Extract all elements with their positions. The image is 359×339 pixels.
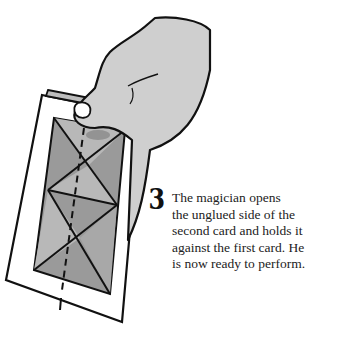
caption-line: against the first card. He [172,240,359,257]
step-caption: The magician opens the unglued side of t… [172,190,359,273]
step-number: 3 [148,186,165,214]
caption-line: is now ready to perform. [172,256,359,273]
caption-line: second card and holds it [172,223,359,240]
caption-line: The magician opens [172,190,359,207]
card-trick-illustration [0,0,359,339]
caption-line: the unglued side of the [172,207,359,224]
